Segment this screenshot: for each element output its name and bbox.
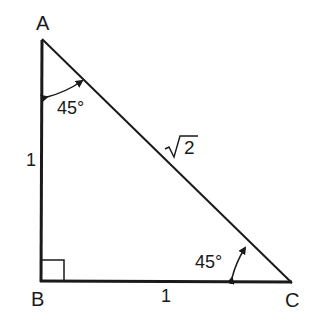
side-bc [40,281,292,282]
triangle-figure [0,0,311,323]
vertex-label-c: C [285,290,299,310]
angle-arc-a [47,81,82,97]
vertex-label-b: B [31,289,44,309]
side-label-ab: 1 [26,151,36,169]
side-ab [41,40,42,282]
triangle-diagram: A B C 1 1 2 45° 45° [0,0,311,323]
side-ac [42,39,292,283]
side-label-ac-radicand: 2 [184,138,195,157]
right-angle-marker [41,260,64,281]
angle-arc-c [232,248,245,278]
angle-label-a: 45° [57,99,84,117]
side-label-bc: 1 [161,287,171,305]
angle-label-c: 45° [195,253,222,271]
vertex-label-a: A [36,13,49,33]
